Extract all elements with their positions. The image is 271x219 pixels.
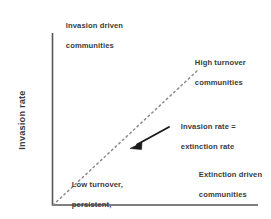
label-invasion-rate-equals-extinction-rate: Invasion rate = extinction rate: [172, 112, 236, 162]
label-line-2: extinction rate: [181, 142, 234, 151]
label-line-1: Low turnover,: [72, 180, 123, 189]
figure-canvas: Invasion rate Invasion driven communitie…: [0, 0, 271, 219]
y-axis-title: Invasion rate: [17, 90, 27, 149]
label-line-2: persistent,: [72, 200, 112, 209]
label-line-1: High turnover: [195, 58, 246, 67]
annotation-arrow: [130, 127, 169, 150]
label-high-turnover-communities: High turnover communities: [186, 48, 246, 98]
label-line-1: Extinction driven: [199, 170, 262, 179]
label-line-2: communities: [199, 190, 247, 199]
label-line-1: Invasion rate =: [181, 122, 236, 131]
label-low-turnover-persistent-communities: Low turnover, persistent, communities: [63, 170, 123, 219]
label-line-1: Invasion driven: [66, 21, 123, 30]
label-line-2: communities: [66, 41, 114, 50]
label-line-2: communities: [195, 78, 243, 87]
label-extinction-driven-communities: Extinction driven communities: [190, 160, 262, 210]
label-invasion-driven-communities: Invasion driven communities: [57, 11, 123, 61]
